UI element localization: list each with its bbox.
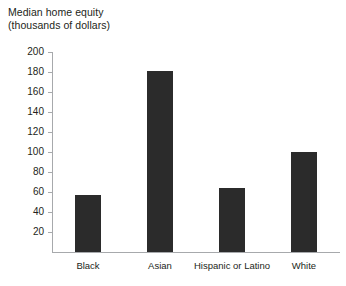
bar — [219, 188, 245, 252]
bar-chart: Median home equity (thousands of dollars… — [0, 0, 346, 286]
y-axis-tick-label: 140 — [16, 107, 44, 117]
bar — [147, 71, 173, 252]
chart-title-line-2: (thousands of dollars) — [8, 19, 110, 32]
y-axis-tick-label: 160 — [16, 87, 44, 97]
x-axis-line — [52, 252, 340, 253]
y-axis-tick-label: 20 — [16, 227, 44, 237]
bar — [291, 152, 317, 252]
bar — [75, 195, 101, 252]
plot-area — [52, 52, 340, 252]
y-axis-tick-label: 200 — [16, 47, 44, 57]
y-axis-tick-label: 180 — [16, 67, 44, 77]
y-axis-tick-label: 60 — [16, 187, 44, 197]
y-axis-tick-label: 40 — [16, 207, 44, 217]
chart-title-line-1: Median home equity — [8, 6, 103, 18]
x-axis-category-label: White — [249, 260, 346, 271]
y-axis-tick-label: 120 — [16, 127, 44, 137]
chart-title: Median home equity (thousands of dollars… — [8, 6, 110, 32]
y-axis-tick-label: 100 — [16, 147, 44, 157]
y-axis-tick-label: 80 — [16, 167, 44, 177]
